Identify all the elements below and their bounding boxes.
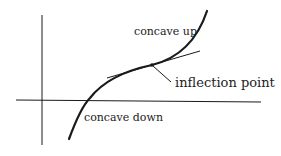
- label-inflection-point: inflection point: [175, 75, 276, 90]
- inflection-point-diagram: concave up inflection point concave down: [0, 0, 281, 156]
- label-concave-down: concave down: [84, 111, 163, 124]
- inflection-leader-line: [153, 66, 171, 82]
- x-axis: [16, 100, 261, 102]
- label-concave-up: concave up: [134, 25, 197, 38]
